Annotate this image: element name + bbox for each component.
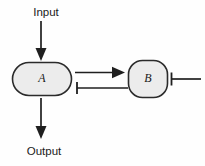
a-to-b-arrow-head-icon — [112, 67, 125, 78]
diagram-svg: A B Input Output — [0, 0, 205, 166]
edge-a-to-b — [75, 67, 125, 78]
edge-b-to-a — [77, 82, 128, 94]
node-a[interactable]: A — [13, 63, 72, 96]
output-arrow-head-icon — [36, 126, 47, 139]
edge-b-to-downstream — [171, 73, 201, 86]
edge-input-to-a — [36, 21, 47, 61]
network-diagram: A B Input Output — [0, 0, 205, 166]
node-b-label: B — [144, 71, 152, 85]
output-label: Output — [27, 145, 62, 157]
input-arrow-head-icon — [36, 48, 47, 61]
node-a-label: A — [37, 71, 46, 85]
edge-a-to-output — [36, 98, 47, 139]
input-label: Input — [33, 6, 59, 18]
node-b[interactable]: B — [129, 61, 168, 98]
